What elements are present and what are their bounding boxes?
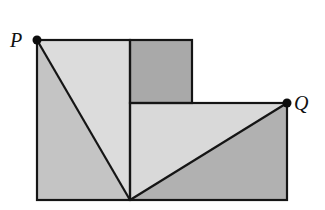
- label-p: P: [9, 29, 22, 51]
- geometry-diagram: P Q: [0, 0, 325, 210]
- small-square: [130, 40, 192, 103]
- point-q-dot: [283, 99, 292, 108]
- label-q: Q: [294, 92, 309, 114]
- point-p-dot: [33, 36, 42, 45]
